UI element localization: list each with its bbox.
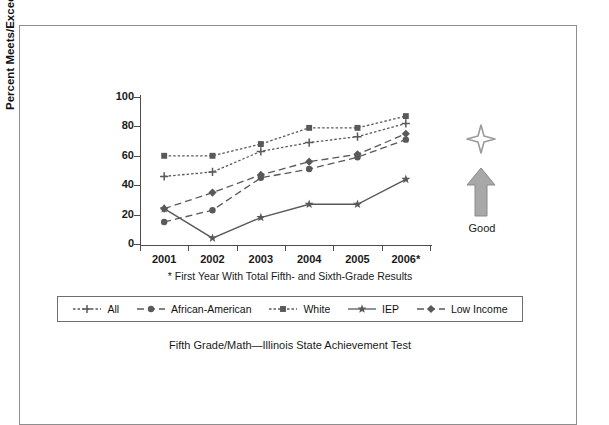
x-tick	[285, 245, 286, 251]
x-axis-footnote: * First Year With Total Fifth- and Sixth…	[130, 270, 450, 282]
legend-item-label: African-American	[171, 303, 252, 315]
y-tick-label: 40	[94, 178, 134, 190]
plus-marker-icon	[72, 302, 102, 316]
y-tick-label: 100	[94, 90, 134, 102]
diamond-marker-icon	[416, 302, 446, 316]
legend-item-label: Low Income	[451, 303, 508, 315]
series-canvas	[140, 97, 430, 244]
legend-item-low-income[interactable]: Low Income	[416, 302, 508, 316]
legend-item-african-american[interactable]: African-American	[136, 302, 252, 316]
y-tick-label: 20	[94, 208, 134, 220]
legend-item-label: White	[303, 303, 330, 315]
x-axis-line	[140, 245, 432, 246]
y-axis-label: Percent Meets/Exceeds	[4, 0, 16, 110]
page-frame: Percent Meets/Exceeds 020406080100 20012…	[19, 25, 577, 425]
series-all	[160, 119, 410, 180]
legend-item-iep[interactable]: IEP	[347, 302, 399, 316]
legend-item-label: IEP	[382, 303, 399, 315]
chart-legend: AllAfrican-AmericanWhiteIEPLow Income	[57, 296, 523, 322]
y-tick-label: 60	[94, 149, 134, 161]
x-tick	[333, 245, 334, 251]
legend-item-all[interactable]: All	[72, 302, 119, 316]
series-african-american	[161, 136, 409, 225]
legend-item-label: All	[107, 303, 119, 315]
good-label: Good	[452, 222, 512, 234]
chart-figure: Percent Meets/Exceeds 020406080100 20012…	[20, 26, 578, 404]
series-iep	[160, 175, 411, 242]
y-tick-label: 80	[94, 119, 134, 131]
square-marker-icon	[268, 302, 298, 316]
chart-caption: Fifth Grade/Math—Illinois State Achievem…	[65, 339, 515, 351]
x-tick-label: 2006*	[378, 253, 434, 265]
y-tick-label: 0	[94, 237, 134, 249]
x-tick	[382, 245, 383, 251]
x-tick	[188, 245, 189, 251]
circle-marker-icon	[136, 302, 166, 316]
x-tick	[430, 245, 431, 251]
series-low-income	[160, 130, 410, 213]
legend-item-white[interactable]: White	[268, 302, 330, 316]
plot-area	[140, 97, 430, 244]
star-marker-icon	[347, 302, 377, 316]
star-icon	[466, 124, 496, 154]
up-arrow-icon	[464, 166, 498, 218]
x-tick	[140, 245, 141, 251]
x-tick	[237, 245, 238, 251]
